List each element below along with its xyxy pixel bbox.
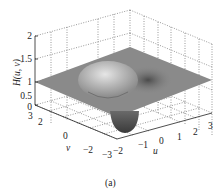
u-tick-m1: −1 [138,140,148,150]
u-tick-0: 0 [159,136,164,146]
u-axis-label: u [153,146,158,156]
u-tick-2: 2 [193,127,198,137]
u-tick-m2: −2 [113,146,123,156]
v-tick-3: 3 [28,111,33,121]
v-tick-0: 0 [63,131,68,141]
z-tick-0.5: 0.5 [20,91,32,101]
v-tick-2: 2 [38,117,43,127]
v-axis-label: v [66,143,71,153]
z-tick-1: 1 [27,77,32,87]
z-axis-label: H(u, v) [12,59,23,87]
v-tick-m2: −2 [83,145,93,155]
u-tick-3: 3 [208,121,213,131]
z-tick-2: 2 [27,31,32,41]
surface-plot: 2 1.5 1 0.5 0 H(u, v) 3 2 0 −2 v −3 −2 −… [0,0,218,193]
u-tick-1: 1 [177,132,182,142]
u-tick-m3: −3 [102,150,112,160]
figure-caption: (a) [105,178,116,189]
